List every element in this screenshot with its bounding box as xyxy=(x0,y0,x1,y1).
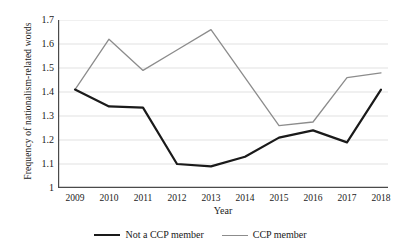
chart-figure: Frequency of nationalism-related words 1… xyxy=(0,0,401,249)
legend-item[interactable]: CCP member xyxy=(222,229,307,241)
y-axis-tick-label: 1.1 xyxy=(28,159,54,169)
y-axis-tick-label: 1.7 xyxy=(28,15,54,25)
legend-item[interactable]: Not a CCP member xyxy=(94,229,203,241)
legend-label: Not a CCP member xyxy=(125,229,203,241)
x-axis-tick-labels: 2009201020112012201320142015201620172018 xyxy=(0,192,401,206)
series-line-not-a-ccp-member xyxy=(75,90,381,167)
x-axis-label: Year xyxy=(58,205,388,216)
y-axis-tick-labels: 11.11.21.31.41.51.61.7 xyxy=(22,0,54,249)
x-axis-tick-label: 2018 xyxy=(361,192,401,204)
y-axis-tick-label: 1.2 xyxy=(28,135,54,145)
legend-line-swatch xyxy=(222,235,248,236)
y-axis-tick-label: 1.5 xyxy=(28,63,54,73)
chart-legend: Not a CCP memberCCP member xyxy=(0,226,401,244)
plot-svg xyxy=(58,20,388,188)
y-axis-tick-label: 1.4 xyxy=(28,87,54,97)
plot-area xyxy=(58,20,388,188)
y-axis-tick-label: 1.6 xyxy=(28,39,54,49)
legend-line-swatch xyxy=(94,234,120,236)
y-axis-tick-label: 1.3 xyxy=(28,111,54,121)
legend-label: CCP member xyxy=(253,229,307,241)
